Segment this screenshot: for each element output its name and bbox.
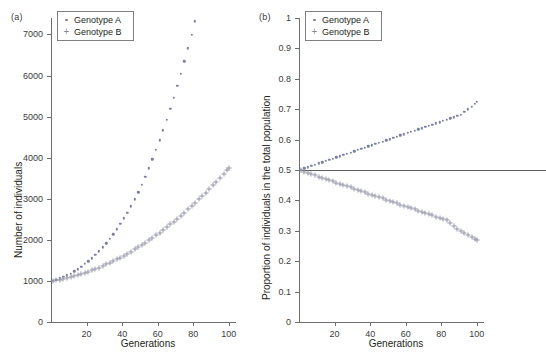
data-point-dot [449, 117, 451, 119]
panel-b-x-axis-title: Generations [369, 338, 423, 349]
data-point-plus [196, 197, 201, 202]
data-point-plus [61, 276, 66, 281]
data-point-plus [217, 175, 222, 180]
data-point-dot [310, 165, 312, 167]
data-point-dot [180, 73, 182, 75]
data-point-plus [57, 277, 62, 282]
data-point-dot [173, 96, 175, 98]
data-point-plus [348, 185, 353, 190]
data-point-dot [144, 175, 146, 177]
data-point-plus [409, 206, 414, 211]
panel-a-legend-label-b: Genotype B [72, 27, 122, 37]
data-point-plus [161, 227, 166, 232]
data-point-dot [141, 183, 143, 185]
data-point-dot [364, 146, 366, 148]
data-point-plus [226, 166, 231, 171]
data-point-dot [91, 257, 93, 259]
data-point-dot [399, 134, 401, 136]
data-point-dot [442, 120, 444, 122]
data-point-plus [391, 200, 396, 205]
data-point-dot [317, 162, 319, 164]
data-point-plus [334, 180, 339, 185]
data-point-plus [458, 229, 463, 234]
data-point-plus [125, 251, 130, 256]
data-point-dot [324, 160, 326, 162]
data-point-dot [126, 211, 128, 213]
data-point-dot [417, 128, 419, 130]
data-point-plus [323, 176, 328, 181]
x-tick-label: 20 [82, 329, 92, 339]
panel-a-legend-row-genotype-a: Genotype A [61, 14, 128, 26]
data-point-plus [337, 181, 342, 186]
data-point-plus [89, 268, 94, 273]
data-point-dot [474, 103, 476, 105]
data-point-dot [332, 157, 334, 159]
data-point-dot [356, 149, 358, 151]
data-point-dot [378, 142, 380, 144]
data-point-dot [353, 150, 355, 152]
data-point-plus [416, 208, 421, 213]
panel-a-series [51, 18, 236, 322]
data-point-dot [94, 254, 96, 256]
data-point-dot [66, 274, 68, 276]
data-point-plus [185, 207, 190, 212]
data-point-plus [118, 255, 123, 260]
data-point-dot [428, 125, 430, 127]
data-point-plus [200, 194, 205, 199]
data-point-dot [59, 277, 61, 279]
panel-b-legend: Genotype A + Genotype B [305, 11, 382, 41]
data-point-plus [426, 212, 431, 217]
data-point-plus [107, 260, 112, 265]
data-point-dot [169, 108, 171, 110]
data-point-plus [153, 233, 158, 238]
data-point-plus [316, 174, 321, 179]
data-point-plus [114, 257, 119, 262]
data-point-plus [377, 195, 382, 200]
data-point-dot [396, 136, 398, 138]
data-point-plus [462, 231, 467, 236]
panel-b-x-axis [299, 322, 484, 323]
x-tick-label: 80 [436, 329, 446, 339]
data-point-dot [69, 272, 71, 274]
data-point-plus [203, 190, 208, 195]
panel-b-reference-line [299, 170, 546, 171]
data-point-dot [87, 260, 89, 262]
data-point-dot [190, 34, 192, 36]
data-point-dot [445, 118, 447, 120]
panel-a-legend-row-genotype-b: + Genotype B [61, 26, 128, 38]
data-point-plus [136, 245, 141, 250]
data-point-dot [130, 205, 132, 207]
y-tick-label: 1000 [3, 276, 43, 286]
data-point-plus [473, 236, 478, 241]
data-point-dot [73, 270, 75, 272]
x-tick-label: 20 [330, 329, 340, 339]
panel-b-legend-label-a: Genotype A [320, 15, 369, 25]
plus-marker-icon: + [61, 27, 72, 37]
data-point-plus [171, 219, 176, 224]
data-point-dot [403, 133, 405, 135]
data-point-plus [214, 179, 219, 184]
data-point-dot [165, 119, 167, 121]
data-point-plus [86, 269, 91, 274]
data-point-plus [121, 253, 126, 258]
data-point-plus [309, 172, 314, 177]
data-point-dot [424, 126, 426, 128]
data-point-plus [359, 189, 364, 194]
data-point-plus [394, 201, 399, 206]
data-point-plus [412, 207, 417, 212]
data-point-plus [423, 211, 428, 216]
data-point-plus [465, 232, 470, 237]
panel-a-y-axis [51, 18, 52, 322]
data-point-dot [155, 149, 157, 151]
data-point-plus [225, 168, 230, 173]
data-point-plus [369, 192, 374, 197]
panel-b-legend-label-b: Genotype B [320, 27, 370, 37]
data-point-plus [327, 178, 332, 183]
data-point-dot [133, 198, 135, 200]
data-point-plus [189, 204, 194, 209]
data-point-dot [187, 47, 189, 49]
data-point-plus [210, 183, 215, 188]
panel-b-label: (b) [259, 12, 271, 22]
panel-a-legend: Genotype A + Genotype B [57, 11, 134, 41]
data-point-plus [398, 202, 403, 207]
